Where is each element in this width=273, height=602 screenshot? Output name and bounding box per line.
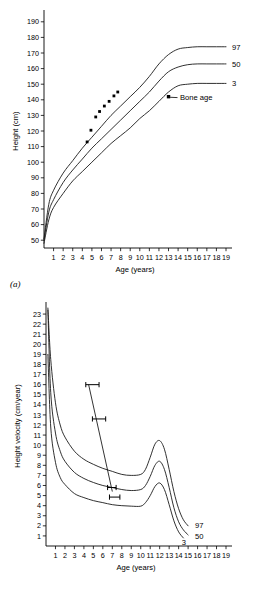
velocity-trend-line <box>89 385 113 492</box>
y-tick-label: 15 <box>33 390 41 399</box>
y-axis-title: Height velocity (cm/year) <box>13 384 22 468</box>
chart-axes <box>46 302 232 546</box>
panel-caption-a: (a) <box>10 280 21 289</box>
y-tick-label: 7 <box>37 471 41 480</box>
x-tick-label: 1 <box>53 551 57 560</box>
x-tick-label: 11 <box>146 253 153 262</box>
y-tick-label: 13 <box>33 411 41 420</box>
x-tick-label: 9 <box>128 253 132 262</box>
x-tick-label: 2 <box>61 253 65 262</box>
x-tick-label: 19 <box>222 253 230 262</box>
y-tick-label: 14 <box>33 400 41 409</box>
x-tick-label: 14 <box>175 551 183 560</box>
centile-label-50: 50 <box>195 532 203 541</box>
centile-curve-97 <box>48 308 188 526</box>
patient-height-points <box>86 91 119 144</box>
centile-curve-3 <box>44 83 226 243</box>
x-tick-label: 19 <box>222 551 230 560</box>
y-tick-label: 19 <box>33 350 41 359</box>
patient-height-point <box>94 116 97 119</box>
centile-label-97: 97 <box>195 521 203 530</box>
patient-height-point <box>116 91 119 94</box>
bone-age-marker <box>167 95 170 98</box>
y-tick-label: 90 <box>31 173 39 182</box>
x-tick-label: 3 <box>71 253 75 262</box>
y-tick-label: 23 <box>33 310 41 319</box>
bone-age-label: Bone age <box>180 93 213 102</box>
patient-height-point <box>86 141 89 144</box>
y-tick-label: 21 <box>33 330 41 339</box>
x-tick-label: 16 <box>193 253 201 262</box>
x-tick-label: 9 <box>129 551 133 560</box>
patient-height-point <box>90 129 93 132</box>
y-tick-label: 170 <box>27 49 39 58</box>
patient-height-point <box>98 110 101 113</box>
growth-chart-figure: 5060708090100110120130140150160170180190… <box>0 0 273 602</box>
x-tick-label: 2 <box>63 551 67 560</box>
x-tick-label: 6 <box>101 551 105 560</box>
x-tick-label: 1 <box>52 253 56 262</box>
y-tick-label: 10 <box>33 441 41 450</box>
x-tick-label: 18 <box>212 253 220 262</box>
x-tick-label: 13 <box>165 253 173 262</box>
y-tick-label: 190 <box>27 17 39 26</box>
x-tick-label: 6 <box>99 253 103 262</box>
y-tick-label: 17 <box>33 370 41 379</box>
y-tick-label: 11 <box>34 431 41 440</box>
height-for-age-chart: 5060708090100110120130140150160170180190… <box>0 0 273 296</box>
y-tick-label: 5 <box>37 491 41 500</box>
y-tick-label: 180 <box>27 33 39 42</box>
y-tick-label: 160 <box>27 64 39 73</box>
patient-height-point <box>103 105 106 108</box>
panel-height-for-age: 5060708090100110120130140150160170180190… <box>0 0 273 296</box>
x-tick-label: 10 <box>137 551 145 560</box>
centile-label-97: 97 <box>232 43 240 52</box>
y-tick-label: 60 <box>31 220 39 229</box>
y-tick-label: 22 <box>33 320 41 329</box>
x-tick-label: 14 <box>174 253 182 262</box>
y-tick-label: 18 <box>33 360 41 369</box>
y-tick-label: 70 <box>31 205 39 214</box>
patient-height-point <box>113 95 116 98</box>
y-tick-label: 1 <box>37 532 41 541</box>
y-tick-label: 80 <box>31 189 39 198</box>
y-tick-label: 50 <box>31 236 39 245</box>
panel-height-velocity-for-age: 1234567891011121314151617181920212223123… <box>0 296 273 602</box>
x-tick-label: 7 <box>109 253 113 262</box>
centile-curve-50 <box>44 64 226 240</box>
x-tick-label: 4 <box>80 253 84 262</box>
x-tick-label: 5 <box>91 551 95 560</box>
x-tick-label: 8 <box>119 253 123 262</box>
x-tick-label: 17 <box>203 253 211 262</box>
y-tick-label: 20 <box>33 340 41 349</box>
centile-label-3: 3 <box>182 538 186 547</box>
x-axis-title: Age (years) <box>115 265 155 274</box>
y-tick-label: 12 <box>33 421 41 430</box>
x-tick-label: 16 <box>194 551 202 560</box>
x-tick-label: 10 <box>136 253 144 262</box>
x-tick-label: 12 <box>155 253 163 262</box>
y-axis-title: Height (cm) <box>11 111 20 151</box>
x-tick-label: 15 <box>184 253 192 262</box>
y-tick-label: 150 <box>27 80 39 89</box>
y-tick-label: 100 <box>27 158 39 167</box>
x-tick-label: 15 <box>184 551 192 560</box>
centile-curve-97 <box>44 47 226 239</box>
x-tick-label: 11 <box>146 551 153 560</box>
x-tick-label: 5 <box>90 253 94 262</box>
x-tick-label: 4 <box>82 551 86 560</box>
patient-velocity-bars <box>86 382 120 500</box>
y-tick-label: 16 <box>33 380 41 389</box>
centile-curve-50 <box>48 310 188 535</box>
centile-label-50: 50 <box>232 60 240 69</box>
x-tick-label: 12 <box>156 551 164 560</box>
x-tick-label: 8 <box>120 551 124 560</box>
y-tick-label: 4 <box>37 501 41 510</box>
y-tick-label: 110 <box>28 142 39 151</box>
x-tick-label: 7 <box>110 551 114 560</box>
x-axis-title: Age (years) <box>116 563 156 572</box>
y-tick-label: 6 <box>37 481 41 490</box>
y-tick-label: 3 <box>37 511 41 520</box>
y-tick-label: 8 <box>37 461 41 470</box>
y-tick-label: 2 <box>37 521 41 530</box>
